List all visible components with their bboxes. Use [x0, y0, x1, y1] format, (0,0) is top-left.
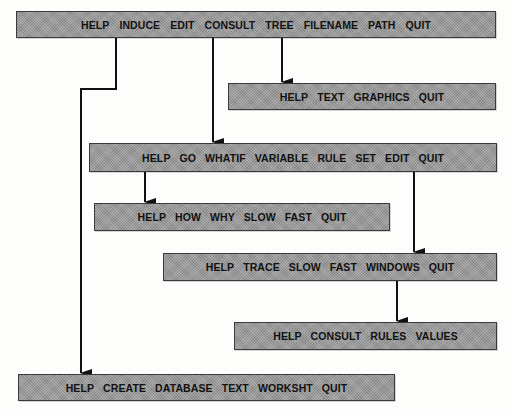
main-menu-tree[interactable]: TREE	[265, 19, 293, 31]
main-menu-path[interactable]: PATH	[368, 19, 395, 31]
consult-menu-rule[interactable]: RULE	[317, 152, 346, 164]
main-menu-help[interactable]: HELP	[81, 19, 109, 31]
consult-menu-variable[interactable]: VARIABLE	[255, 152, 309, 164]
go-menu-why[interactable]: WHY	[210, 211, 235, 223]
main-menu-quit[interactable]: QUIT	[406, 19, 431, 31]
tree-menu-quit[interactable]: QUIT	[419, 91, 444, 103]
consult-menu-set[interactable]: SET	[355, 152, 376, 164]
induce-menu-text[interactable]: TEXT	[222, 382, 249, 394]
consult-menu-whatif[interactable]: WHATIF	[205, 152, 246, 164]
tree-menu-text[interactable]: TEXT	[317, 91, 344, 103]
induce-menu-bar: HELP CREATE DATABASE TEXT WORKSHT QUIT	[18, 374, 395, 401]
induce-menu-worksht[interactable]: WORKSHT	[258, 382, 313, 394]
consult-edit-menu-trace[interactable]: TRACE	[243, 261, 280, 273]
main-menu-edit[interactable]: EDIT	[170, 19, 194, 31]
induce-menu-help[interactable]: HELP	[66, 382, 94, 394]
go-menu-fast[interactable]: FAST	[285, 211, 312, 223]
induce-menu-create[interactable]: CREATE	[103, 382, 146, 394]
windows-menu-rules[interactable]: RULES	[370, 330, 406, 342]
consult-menu-quit[interactable]: QUIT	[418, 152, 443, 164]
windows-menu-bar: HELP CONSULT RULES VALUES	[234, 322, 497, 350]
consult-edit-menu-help[interactable]: HELP	[206, 261, 234, 273]
consult-edit-menu-windows[interactable]: WINDOWS	[366, 261, 420, 273]
go-menu-how[interactable]: HOW	[175, 211, 201, 223]
consult-edit-menu-slow[interactable]: SLOW	[289, 261, 321, 273]
consult-edit-menu-quit[interactable]: QUIT	[429, 261, 454, 273]
consult-edit-menu-bar: HELP TRACE SLOW FAST WINDOWS QUIT	[163, 253, 497, 281]
consult-menu-edit[interactable]: EDIT	[385, 152, 409, 164]
induce-menu-database[interactable]: DATABASE	[155, 382, 213, 394]
main-menu-consult[interactable]: CONSULT	[205, 19, 256, 31]
consult-menu-help[interactable]: HELP	[142, 152, 170, 164]
diagram-canvas: HELP INDUCE EDIT CONSULT TREE FILENAME P…	[0, 0, 512, 414]
go-menu-quit[interactable]: QUIT	[321, 211, 346, 223]
main-menu-bar: HELP INDUCE EDIT CONSULT TREE FILENAME P…	[16, 11, 496, 38]
tree-menu-bar: HELP TEXT GRAPHICS QUIT	[228, 83, 496, 110]
windows-menu-help[interactable]: HELP	[273, 330, 301, 342]
tree-menu-graphics[interactable]: GRAPHICS	[353, 91, 409, 103]
windows-menu-values[interactable]: VALUES	[415, 330, 457, 342]
go-menu-slow[interactable]: SLOW	[244, 211, 276, 223]
consult-menu-go[interactable]: GO	[179, 152, 196, 164]
consult-edit-menu-fast[interactable]: FAST	[330, 261, 357, 273]
tree-menu-help[interactable]: HELP	[280, 91, 308, 103]
main-menu-induce[interactable]: INDUCE	[119, 19, 160, 31]
go-menu-bar: HELP HOW WHY SLOW FAST QUIT	[94, 203, 390, 231]
induce-menu-quit[interactable]: QUIT	[322, 382, 347, 394]
windows-menu-consult[interactable]: CONSULT	[311, 330, 362, 342]
go-menu-help[interactable]: HELP	[138, 211, 166, 223]
consult-menu-bar: HELP GO WHATIF VARIABLE RULE SET EDIT QU…	[89, 143, 497, 172]
main-menu-filename[interactable]: FILENAME	[304, 19, 358, 31]
